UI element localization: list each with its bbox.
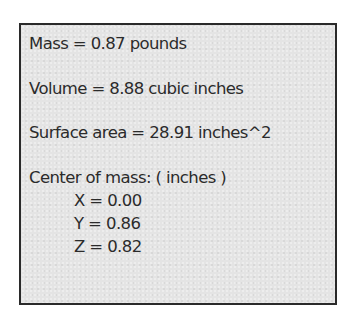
center-of-mass-z: Z = 0.82 bbox=[74, 237, 142, 257]
surface-area-value: Surface area = 28.91 inches^2 bbox=[29, 123, 271, 143]
volume-value: Volume = 8.88 cubic inches bbox=[29, 79, 243, 99]
mass-value: Mass = 0.87 pounds bbox=[29, 34, 187, 54]
center-of-mass-label: Center of mass: ( inches ) bbox=[29, 168, 226, 188]
mass-properties-box: Mass = 0.87 pounds Volume = 8.88 cubic i… bbox=[19, 23, 337, 305]
center-of-mass-y: Y = 0.86 bbox=[74, 214, 140, 234]
center-of-mass-x: X = 0.00 bbox=[74, 191, 142, 211]
